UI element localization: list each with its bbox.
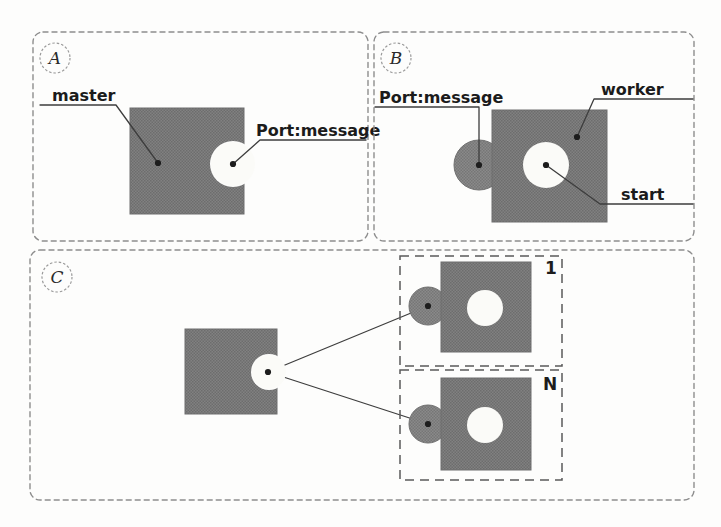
panel-c-link-to-worker-n [268, 372, 428, 424]
panel-c-master-port-dot [265, 369, 271, 375]
diagram-svg: A master Port:message B [0, 0, 721, 527]
panel-b-port-dot [476, 162, 482, 168]
panel-a-port-dot [230, 161, 236, 167]
worker-n-count-label: N [543, 374, 557, 394]
worker-n-start-hole [467, 407, 503, 443]
worker-n-port-dot [425, 421, 431, 427]
diagram-canvas: A master Port:message B [0, 0, 721, 527]
panel-c-border [30, 250, 694, 500]
worker-1-port-dot [425, 303, 431, 309]
panel-b-letter: B [389, 48, 403, 68]
panel-c-worker-1: 1 [400, 256, 562, 366]
panel-c-worker-n: N [400, 370, 562, 480]
panel-b: B Port:message worker start [374, 32, 694, 241]
panel-a: A master Port:message [33, 32, 380, 241]
panel-a-letter: A [47, 48, 61, 68]
panel-c-letter: C [50, 267, 63, 287]
panel-a-label-master: master [52, 86, 115, 105]
panel-a-master-dot [155, 160, 161, 166]
panel-b-worker-dot [574, 134, 580, 140]
panel-b-label-port: Port:message [379, 88, 503, 107]
panel-b-label-start: start [621, 185, 665, 204]
worker-1-count-label: 1 [545, 258, 557, 278]
worker-1-start-hole [467, 290, 503, 326]
panel-b-label-worker: worker [601, 80, 664, 99]
panel-a-label-port: Port:message [256, 121, 380, 140]
panel-c: C 1 N [30, 250, 694, 500]
panel-b-start-dot [543, 162, 549, 168]
panel-c-link-to-worker-1 [268, 306, 428, 372]
